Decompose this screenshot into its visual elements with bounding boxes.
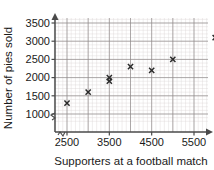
axis-lines — [52, 13, 214, 136]
y-tick-label: 2000 — [26, 71, 50, 83]
y-tick-label: 2500 — [26, 53, 50, 65]
minor-gridlines — [54, 18, 208, 132]
x-tick-label: 5500 — [182, 136, 206, 148]
major-gridlines — [55, 18, 208, 132]
x-tick-label: 4500 — [139, 136, 163, 148]
y-tick-label: 3500 — [26, 17, 50, 29]
x-axis-title: Supporters at a football match — [54, 155, 207, 167]
data-point — [213, 35, 214, 40]
x-tick-label: 2500 — [55, 136, 79, 148]
y-axis-title: Number of pies sold — [2, 27, 14, 129]
y-axis-tick-labels: 100015002000250030003500 — [26, 17, 50, 120]
y-tick-label: 1000 — [26, 108, 50, 120]
y-tick-label: 1500 — [26, 90, 50, 102]
scatter-chart: 100015002000250030003500 250035004500550… — [0, 0, 214, 170]
x-tick-label: 3500 — [97, 136, 121, 148]
chart-canvas: 100015002000250030003500 250035004500550… — [0, 0, 214, 170]
x-axis-tick-labels: 2500350045005500 — [55, 136, 206, 148]
y-tick-label: 3000 — [26, 35, 50, 47]
